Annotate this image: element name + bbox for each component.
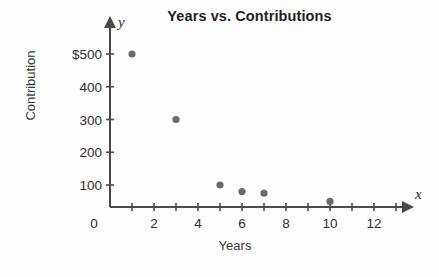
origin-tick-label: 0 — [90, 216, 98, 231]
data-point — [326, 198, 333, 205]
x-axis-title: Years — [110, 238, 360, 253]
y-tick-label: $500 — [40, 47, 102, 62]
data-point — [216, 181, 223, 188]
data-point — [172, 116, 179, 123]
y-tick-label: 300 — [40, 112, 102, 127]
x-tick-label: 2 — [150, 216, 158, 231]
y-tick-label: 100 — [40, 178, 102, 193]
x-tick-label: 6 — [238, 216, 246, 231]
y-tick-label: 400 — [40, 79, 102, 94]
scatter-plot-figure: Years vs. Contributions Contribution Yea… — [0, 0, 439, 277]
data-point — [260, 190, 267, 197]
y-axis-letter: y — [118, 14, 125, 31]
x-tick-label: 12 — [366, 216, 381, 231]
y-axis-title: Contribution — [23, 26, 38, 146]
x-axis-letter: x — [415, 186, 422, 203]
x-tick-label: 8 — [282, 216, 290, 231]
plot-canvas — [0, 0, 439, 277]
data-point — [128, 50, 135, 57]
x-tick-label: 4 — [194, 216, 202, 231]
y-tick-label: 200 — [40, 145, 102, 160]
data-point — [238, 188, 245, 195]
x-tick-label: 10 — [322, 216, 337, 231]
